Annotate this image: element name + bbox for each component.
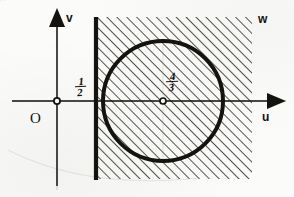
- boundary-value-label: 1 2: [75, 77, 86, 99]
- region-label-w: w: [258, 13, 267, 25]
- u-axis-arrowhead: [267, 93, 286, 109]
- circle-center-marker: [160, 98, 166, 104]
- boundary-value-denominator: 2: [74, 88, 86, 98]
- v-axis-line: [49, 8, 65, 186]
- v-axis-label: v: [66, 12, 73, 24]
- circle-center-label: 4 3: [166, 72, 178, 94]
- u-axis-label: u: [262, 111, 269, 123]
- boundary-value-numerator: 1: [75, 77, 87, 86]
- origin-label: O: [30, 111, 41, 126]
- origin-marker: [54, 98, 60, 104]
- diagram-svg: [0, 0, 294, 197]
- figure-canvas: v u w O 1 2 4 3: [0, 0, 294, 197]
- circle-center-denominator: 3: [165, 83, 178, 93]
- v-axis-arrowhead: [49, 8, 65, 27]
- circle-center-numerator: 4: [166, 72, 179, 81]
